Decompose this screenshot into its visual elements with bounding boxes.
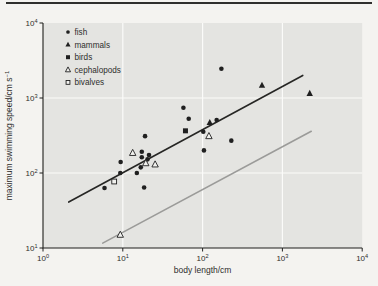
tick-label: 102 [197,253,209,263]
tick-label: 103 [25,93,37,103]
tick-label: 101 [25,243,37,253]
data-point-fish [219,67,224,72]
data-point-fish [139,149,144,154]
data-point-fish [143,134,148,139]
legend-label: mammals [75,41,110,50]
figure: 100101102103104101102103104body length/c… [0,0,378,286]
swimming-speed-scatter-chart: 100101102103104101102103104body length/c… [0,0,378,286]
y-axis-title: maximum swimming speed/cm s−1 [4,70,14,200]
data-point-fish [202,148,207,153]
data-point-fish [229,138,234,143]
data-point-fish [135,171,140,176]
x-axis: 100101102103104 [37,248,368,263]
tick-label: 102 [25,168,37,178]
data-point-fish [139,155,144,160]
legend-label: bivalves [75,78,105,87]
tick-label: 103 [276,253,288,263]
tick-label: 104 [25,18,37,28]
data-point-fish [102,186,107,191]
legend-marker-fish [66,30,70,34]
data-point-fish [147,153,152,158]
series-birds [183,128,188,133]
data-point-fish [214,118,219,123]
legend-label: birds [75,53,93,62]
x-axis-title: body length/cm [174,265,232,275]
legend-item-cephalopods: cephalopods [65,66,120,75]
y-axis: 101102103104 [25,18,43,253]
data-point-fish [142,185,147,190]
tick-label: 100 [37,253,49,263]
data-point-fish [118,160,123,165]
legend-label: cephalopods [75,66,121,75]
legend-marker-bivalves [66,80,70,84]
data-point-birds [183,128,188,133]
data-point-fish [186,116,191,121]
data-point-fish [201,129,206,134]
series-bivalves [112,179,117,184]
legend-marker-birds [66,55,70,59]
tick-label: 101 [117,253,129,263]
data-point-fish [118,171,123,176]
data-point-fish [181,106,186,111]
tick-label: 104 [356,253,368,263]
legend-label: fish [75,28,88,37]
data-point-bivalves [112,179,117,184]
